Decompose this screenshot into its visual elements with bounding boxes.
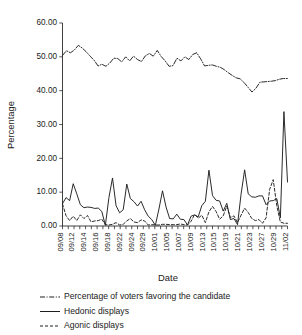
x-tick-label: 09/16: [91, 233, 100, 252]
x-tick-label: 09/29: [138, 233, 147, 252]
data-series-group: [63, 45, 288, 225]
series-line: [63, 45, 288, 92]
x-tick-label: 10/09: [186, 233, 195, 252]
chart-figure: 0.0010.0020.0030.0040.0050.0060.00 09/08…: [0, 0, 302, 335]
legend-label: Percentage of voters favoring the candid…: [64, 291, 230, 301]
y-axis: 0.0010.0020.0030.0040.0050.0060.00: [37, 18, 63, 230]
x-axis: 09/0809/1209/1409/1609/1809/2209/2409/29…: [56, 226, 290, 252]
x-tick-label: 09/08: [56, 233, 65, 252]
series-line: [63, 112, 288, 226]
x-tick-label: 10/15: [209, 233, 218, 252]
x-tick-label: 10/29: [269, 233, 278, 252]
line-chart: 0.0010.0020.0030.0040.0050.0060.00 09/08…: [0, 0, 302, 335]
x-tick-label: 10/07: [174, 233, 183, 252]
x-tick-label: 09/22: [115, 233, 124, 252]
chart-legend: Percentage of voters favoring the candid…: [40, 291, 230, 330]
x-tick-label: 10/05: [162, 233, 171, 252]
y-axis-title: Percentage: [5, 101, 16, 149]
legend-label: Hedonic displays: [64, 306, 129, 316]
y-tick-label: 30.00: [37, 120, 58, 129]
x-tick-label: 11/02: [281, 233, 290, 251]
x-tick-label: 09/18: [103, 233, 112, 252]
legend-label: Agonic displays: [64, 320, 124, 330]
x-tick-label: 10/27: [257, 233, 266, 252]
series-line: [63, 180, 288, 225]
y-tick-label: 20.00: [37, 154, 58, 163]
x-tick-label: 10/13: [198, 233, 207, 252]
y-tick-label: 50.00: [37, 52, 58, 61]
x-tick-label: 09/24: [127, 233, 136, 252]
x-tick-label: 10/01: [150, 233, 159, 252]
x-tick-label: 10/19: [221, 233, 230, 252]
x-tick-label: 10/23: [245, 233, 254, 252]
x-tick-label: 09/14: [79, 233, 88, 252]
y-tick-label: 0.00: [41, 221, 57, 230]
x-axis-title: Date: [158, 272, 178, 283]
y-tick-label: 60.00: [37, 18, 58, 27]
x-tick-label: 10/21: [233, 233, 242, 252]
x-tick-label: 09/12: [67, 233, 76, 252]
y-tick-label: 40.00: [37, 86, 58, 95]
y-tick-label: 10.00: [37, 187, 58, 196]
